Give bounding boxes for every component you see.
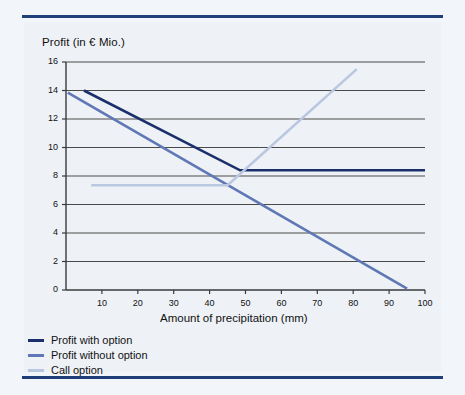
- legend-item-0: Profit with option: [28, 333, 148, 348]
- y-tick-label-6: 6: [36, 199, 58, 209]
- data-series-group: [68, 69, 425, 288]
- y-tick-label-0: 0: [36, 284, 58, 294]
- legend-swatch-icon-0: [28, 339, 44, 342]
- y-tick-label-12: 12: [36, 113, 58, 123]
- series-line-1: [68, 93, 407, 289]
- x-tick-label-10: 10: [90, 298, 114, 308]
- legend-label-0: Profit with option: [51, 333, 132, 348]
- chart-legend: Profit with optionProfit without optionC…: [28, 333, 148, 378]
- x-tick-label-30: 30: [162, 298, 186, 308]
- x-tick-label-60: 60: [269, 298, 293, 308]
- chart-figure: Profit (in € Mio.) Amount of precipitati…: [0, 0, 465, 395]
- gridlines-group: [66, 62, 425, 262]
- y-tick-label-2: 2: [36, 256, 58, 266]
- tick-marks-group: [62, 62, 425, 294]
- x-tick-label-70: 70: [305, 298, 329, 308]
- x-tick-label-40: 40: [198, 298, 222, 308]
- legend-label-2: Call option: [51, 363, 103, 378]
- y-tick-label-4: 4: [36, 227, 58, 237]
- y-tick-label-10: 10: [36, 142, 58, 152]
- x-tick-label-80: 80: [341, 298, 365, 308]
- x-tick-label-50: 50: [234, 298, 258, 308]
- series-line-2: [91, 69, 357, 185]
- legend-swatch-icon-2: [28, 369, 44, 372]
- legend-swatch-icon-1: [28, 354, 44, 357]
- x-tick-label-90: 90: [377, 298, 401, 308]
- legend-item-2: Call option: [28, 363, 148, 378]
- x-tick-label-20: 20: [126, 298, 150, 308]
- y-tick-label-8: 8: [36, 170, 58, 180]
- x-tick-label-100: 100: [413, 298, 437, 308]
- legend-label-1: Profit without option: [51, 348, 148, 363]
- y-tick-label-14: 14: [36, 85, 58, 95]
- y-tick-label-16: 16: [36, 56, 58, 66]
- legend-item-1: Profit without option: [28, 348, 148, 363]
